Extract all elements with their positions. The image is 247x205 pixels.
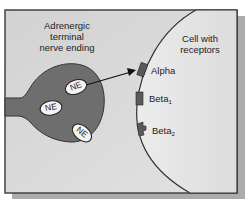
nerve-label-line-1: Adrenergic	[22, 20, 112, 31]
receptor-beta1	[136, 92, 143, 105]
receptor-alpha-label: Alpha	[151, 65, 175, 76]
receptor-beta1-name: Beta	[149, 93, 169, 104]
cell-label: Cell with receptors	[170, 33, 230, 55]
cell-label-line-1: Cell with	[170, 33, 230, 44]
nerve-label: Adrenergic terminal nerve ending	[22, 20, 112, 53]
nerve-label-line-3: nerve ending	[22, 42, 112, 53]
receptor-beta2-label: Beta2	[152, 125, 175, 140]
diagram-frame: Adrenergic terminal nerve ending Cell wi…	[0, 0, 247, 205]
receptor-beta1-label: Beta1	[149, 93, 172, 108]
receptor-beta2-sub: 2	[172, 131, 175, 137]
receptor-beta2-name: Beta	[152, 125, 172, 136]
receptor-beta1-sub: 1	[169, 99, 172, 105]
nerve-label-line-2: terminal	[22, 31, 112, 42]
receptor-alpha-name: Alpha	[151, 65, 175, 76]
cell-label-line-2: receptors	[170, 44, 230, 55]
